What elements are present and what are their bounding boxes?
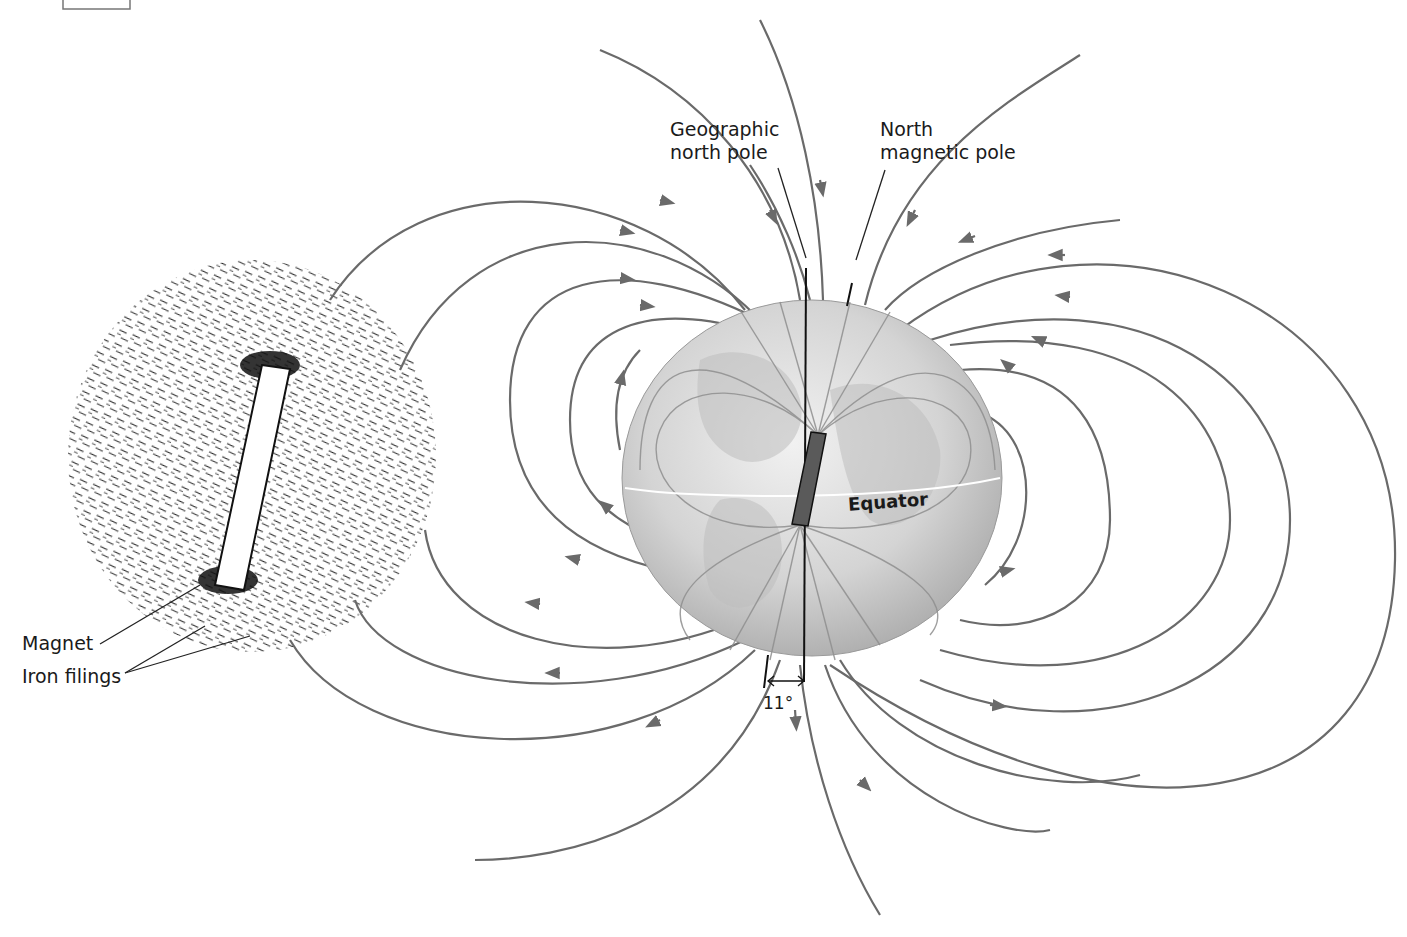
header-box-fragment (63, 0, 130, 9)
label-line-2: magnetic pole (880, 141, 1016, 164)
field-lines-top (600, 20, 1120, 310)
leader-north-magnetic-pole (856, 170, 885, 260)
magnetic-axis-bottom (764, 655, 768, 688)
leader-iron-filings-1 (125, 626, 205, 673)
label-iron-filings: Iron filings (22, 665, 121, 688)
leader-iron-filings-2 (125, 636, 250, 673)
label-declination-angle: 11° (763, 692, 793, 715)
label-line-1: Geographic (670, 118, 779, 141)
iron-filings-panel (68, 260, 436, 652)
label-line-2: north pole (670, 141, 779, 164)
label-north-magnetic-pole: North magnetic pole (880, 118, 1016, 164)
label-line-1: North (880, 118, 1016, 141)
earth-globe (622, 268, 1002, 682)
label-geographic-north-pole: Geographic north pole (670, 118, 779, 164)
label-magnet: Magnet (22, 632, 93, 655)
